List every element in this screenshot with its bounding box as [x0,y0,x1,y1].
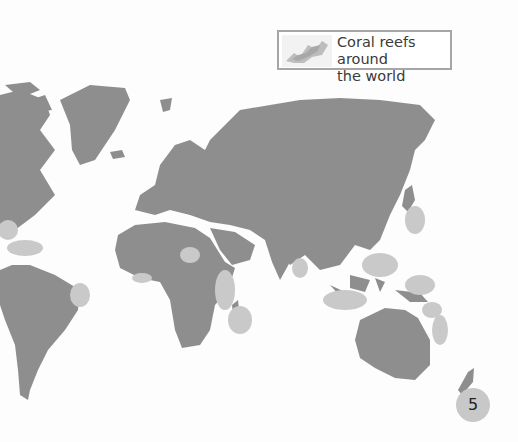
legend-label-line2: the world [337,68,450,85]
svalbard [160,98,172,112]
legend-box: Coral reefs around the world [277,30,452,70]
south-america [0,265,80,400]
north-america [0,90,55,235]
page-number-badge: 5 [456,388,490,422]
legend-label-line1: Coral reefs around [337,34,450,68]
australia [355,308,430,380]
iceland [110,150,125,159]
coral-reef-pattern-icon [282,35,332,67]
